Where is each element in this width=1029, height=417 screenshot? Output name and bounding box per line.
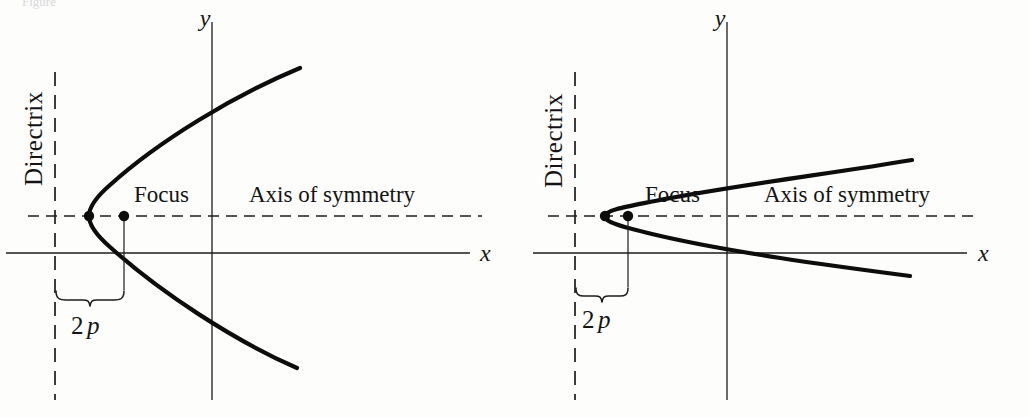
y-axis-label: y [198, 5, 211, 31]
vertex-dot [600, 211, 610, 221]
two-p-brace [56, 291, 124, 306]
x-axis-label: x [479, 240, 491, 266]
parabola-curve [605, 160, 912, 276]
left-parabola-panel: y x Directrix Focus Axis of symmetry 2 p [0, 0, 515, 417]
axis-of-symmetry-label: Axis of symmetry [249, 182, 416, 207]
right-parabola-panel: y x Directrix Focus Axis of symmetry 2 p [515, 0, 1029, 417]
focus-dot [119, 211, 129, 221]
two-p-variable: p [85, 312, 100, 339]
two-p-brace [576, 288, 628, 302]
parabola-figure: Figure y x Directrix Focus Axis of symme… [0, 0, 1029, 417]
focus-label: Focus [134, 182, 189, 207]
two-p-number: 2 [71, 312, 84, 339]
two-p-variable: p [596, 306, 611, 333]
directrix-label: Directrix [20, 91, 47, 186]
focus-label: Focus [645, 182, 700, 207]
vertex-dot [84, 211, 94, 221]
focus-dot [623, 211, 633, 221]
x-axis-label: x [977, 240, 989, 266]
directrix-label: Directrix [540, 93, 567, 188]
two-p-number: 2 [582, 306, 595, 333]
y-axis-label: y [713, 5, 726, 31]
axis-of-symmetry-label: Axis of symmetry [764, 182, 931, 207]
